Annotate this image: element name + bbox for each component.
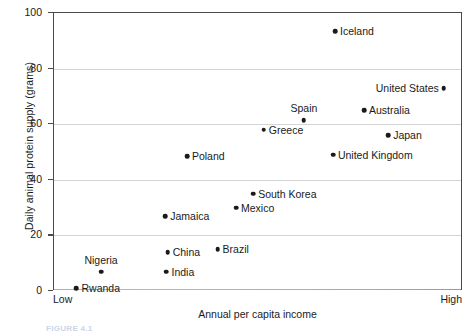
y-tick-label: 0 xyxy=(8,284,42,296)
data-point xyxy=(99,269,104,274)
data-point xyxy=(185,154,190,159)
data-point-label: Mexico xyxy=(241,202,274,213)
data-point-label: Iceland xyxy=(340,26,374,37)
data-point-label: China xyxy=(173,247,200,258)
gridline xyxy=(54,235,461,236)
y-tick-mark xyxy=(48,179,53,180)
data-point-label: Japan xyxy=(393,130,422,141)
data-point xyxy=(164,269,169,274)
x-axis-title: Annual per capita income xyxy=(53,308,462,320)
y-tick-label: 40 xyxy=(8,173,42,185)
data-point xyxy=(362,108,367,113)
data-point-label: India xyxy=(171,266,194,277)
y-tick-mark xyxy=(48,234,53,235)
data-point xyxy=(251,191,256,196)
y-tick-mark xyxy=(48,123,53,124)
data-point xyxy=(234,205,239,210)
y-tick-label: 100 xyxy=(8,6,42,18)
plot-area: RwandaNigeriaIndiaChinaBrazilJamaicaMexi… xyxy=(53,12,462,290)
gridline xyxy=(54,180,461,181)
data-point-label: Poland xyxy=(192,151,225,162)
data-point-label: Australia xyxy=(369,105,410,116)
gridline xyxy=(54,124,461,125)
figure-container: Daily animal protein supply (grams) Rwan… xyxy=(0,0,475,333)
data-point-label: Brazil xyxy=(223,244,249,255)
x-axis-high-label: High xyxy=(440,293,462,305)
y-tick-label: 80 xyxy=(8,62,42,74)
data-point-label: United States xyxy=(376,83,439,94)
data-point-label: Jamaica xyxy=(170,211,209,222)
data-point-label: Nigeria xyxy=(84,254,117,265)
figure-caption: FIGURE 4.1 xyxy=(46,324,93,333)
gridline xyxy=(54,69,461,70)
x-axis-low-label: Low xyxy=(53,293,72,305)
data-point-label: Spain xyxy=(290,103,317,114)
y-tick-mark xyxy=(48,68,53,69)
y-tick-mark xyxy=(48,12,53,13)
y-tick-label: 60 xyxy=(8,117,42,129)
y-tick-label: 20 xyxy=(8,228,42,240)
data-point xyxy=(163,214,168,219)
data-point xyxy=(74,286,79,291)
data-point xyxy=(302,118,307,123)
data-point xyxy=(331,152,336,157)
data-point-label: Greece xyxy=(269,125,303,136)
data-point xyxy=(215,247,220,252)
data-point-label: United Kingdom xyxy=(338,150,413,161)
data-point xyxy=(165,250,170,255)
data-point xyxy=(333,29,338,34)
data-point-label: South Korea xyxy=(258,188,316,199)
data-point-label: Rwanda xyxy=(81,283,120,294)
data-point xyxy=(386,133,391,138)
data-point xyxy=(262,127,267,132)
data-point xyxy=(441,86,446,91)
y-tick-mark xyxy=(48,290,53,291)
